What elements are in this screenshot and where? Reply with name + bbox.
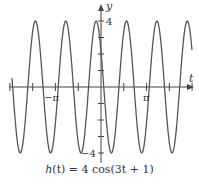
y-max-label: 4	[106, 16, 112, 27]
y-min-label: −4	[81, 148, 96, 159]
caption-formula: (t) = 4 cos(3t + 1)	[52, 163, 153, 176]
axes	[9, 4, 194, 163]
t-axis-label: t	[189, 72, 194, 85]
chart: y t 4 −4 −π π	[0, 0, 199, 187]
neg-pi-label: −π	[44, 92, 59, 103]
y-axis-label: y	[105, 0, 113, 13]
chart-caption: h(t) = 4 cos(3t + 1)	[0, 163, 199, 176]
pi-label: π	[143, 92, 150, 103]
